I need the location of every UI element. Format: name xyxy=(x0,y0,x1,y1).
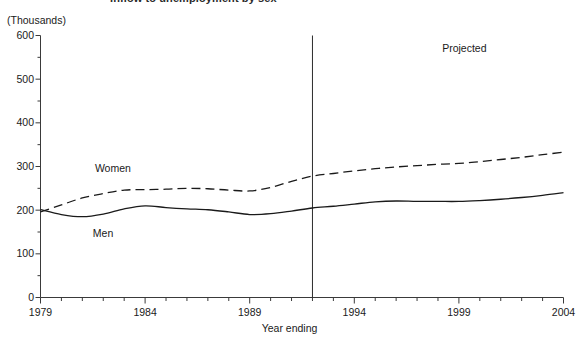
series-line-women xyxy=(41,152,564,212)
y-axis-tick-label: 500 xyxy=(0,74,34,85)
plot-area xyxy=(0,0,579,341)
annotation-projection-divider: Projected xyxy=(442,42,486,54)
series-label-men: Men xyxy=(93,227,113,239)
y-axis-tick-label: 400 xyxy=(0,117,34,128)
x-axis-ticks xyxy=(41,298,564,304)
y-axis-tick-label: 100 xyxy=(0,248,34,259)
y-axis-tick-label: 200 xyxy=(0,205,34,216)
x-axis-tick-label: 1994 xyxy=(329,307,379,318)
x-axis-tick-label: 1979 xyxy=(16,307,66,318)
series-label-women: Women xyxy=(95,162,131,174)
x-axis-tick-label: 2004 xyxy=(539,307,579,318)
series-line-men xyxy=(41,193,564,217)
x-axis-title: Year ending xyxy=(0,322,579,334)
y-axis-tick-label: 0 xyxy=(0,292,34,303)
y-axis-ticks xyxy=(36,36,41,298)
chart-container: Inflow to unemployment by sex (Thousands… xyxy=(0,0,579,341)
x-axis-tick-label: 1999 xyxy=(434,307,484,318)
y-axis-tick-label: 600 xyxy=(0,30,34,41)
y-axis-tick-label: 300 xyxy=(0,161,34,172)
x-axis-tick-label: 1984 xyxy=(120,307,170,318)
x-axis-tick-label: 1989 xyxy=(225,307,275,318)
